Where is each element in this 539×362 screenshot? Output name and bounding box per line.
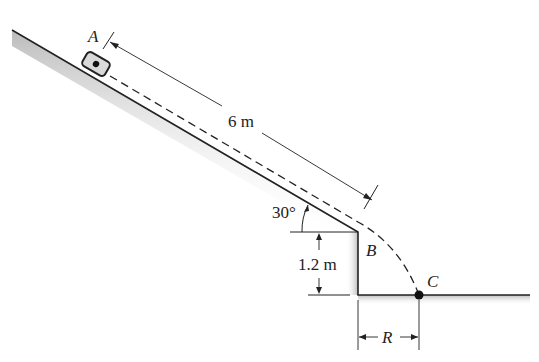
arrow-icon	[110, 42, 119, 49]
label-a: A	[87, 27, 99, 46]
label-b: B	[366, 241, 377, 260]
label-c: C	[427, 272, 439, 291]
arrow-icon	[363, 193, 372, 200]
slope-shading	[12, 30, 358, 246]
arrow-icon	[316, 233, 322, 240]
cliff-shading	[346, 232, 358, 295]
point-c-marker	[415, 291, 424, 300]
dim-tick-a	[103, 32, 114, 49]
label-angle: 30°	[272, 203, 296, 222]
label-slope-length: 6 m	[228, 112, 254, 131]
arrow-icon	[359, 334, 366, 340]
label-range: R	[381, 328, 393, 347]
arrow-icon	[316, 287, 322, 294]
ground-shading	[358, 295, 530, 305]
label-height: 1.2 m	[298, 255, 337, 274]
arrow-icon	[411, 334, 418, 340]
projectile-diagram: A B C 6 m 30° 1.2 m R	[0, 0, 539, 362]
